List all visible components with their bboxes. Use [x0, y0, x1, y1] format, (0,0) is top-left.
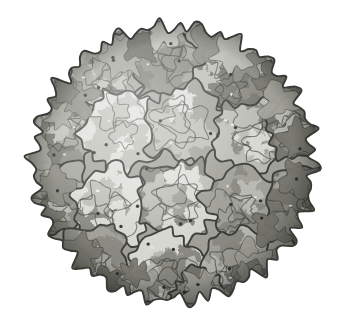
virus-capsid-figure [0, 0, 348, 330]
capsid-rendering [0, 0, 348, 330]
